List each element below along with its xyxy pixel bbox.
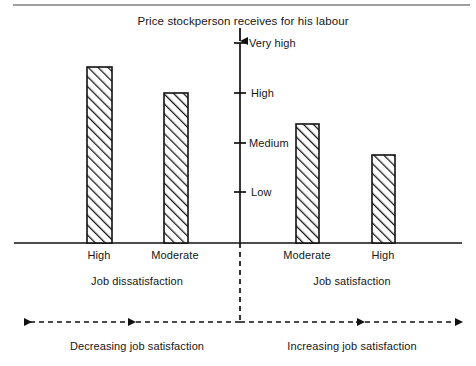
x-axis-label-dissatisfaction-high: High: [87, 249, 110, 261]
y-axis-label-low: Low: [251, 186, 271, 198]
chart-title: Price stockperson receives for his labou…: [137, 15, 348, 27]
trend-label-increasing: Increasing job satisfaction: [287, 340, 416, 352]
bar-dissatisfaction-high: [87, 67, 112, 243]
group-label-job-dissatisfaction: Job dissatisfaction: [91, 275, 183, 287]
chart-canvas: [0, 0, 476, 366]
group-label-job-satisfaction: Job satisfaction: [313, 275, 390, 287]
bar-satisfaction-high: [372, 155, 395, 243]
y-axis-label-very-high: Very high: [249, 37, 296, 49]
x-axis-label-dissatisfaction-moderate: Moderate: [151, 249, 198, 261]
bar-satisfaction-moderate: [296, 124, 319, 243]
chart-figure: Price stockperson receives for his labou…: [0, 0, 476, 366]
x-axis-label-satisfaction-high: High: [371, 249, 394, 261]
y-axis-label-high: High: [251, 87, 274, 99]
trend-label-decreasing: Decreasing job satisfaction: [70, 340, 204, 352]
y-axis-label-medium: Medium: [249, 137, 289, 149]
bar-dissatisfaction-moderate: [164, 93, 188, 243]
x-axis-label-satisfaction-moderate: Moderate: [283, 249, 330, 261]
